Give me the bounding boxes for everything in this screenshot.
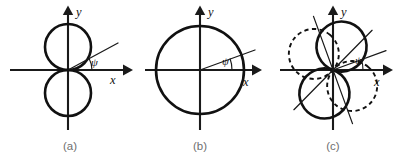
panel-a-x-axis-label: x (109, 73, 116, 87)
panel-c-x-axis-label: x (373, 75, 380, 89)
panel-b-angle-arc (230, 59, 232, 71)
panel-b-y-axis-label: y (206, 5, 214, 19)
panel-c: ψ y x (c) (279, 5, 393, 152)
panel-b-x-axis-arrow-icon (252, 65, 262, 76)
panel-b: ψ y x (b) (145, 5, 262, 152)
panel-c-angle-label: ψ (355, 54, 362, 66)
panel-c-x-axis-arrow-icon (383, 65, 393, 76)
panel-c-y-axis-label: y (339, 5, 347, 19)
panel-b-x-axis-label: x (242, 75, 249, 89)
panel-c-y-axis-arrow-icon (328, 6, 338, 16)
panel-b-caption: (b) (193, 140, 207, 152)
panel-b-y-axis-arrow-icon (195, 6, 205, 16)
figure-container: ψ y x (a) ψ y x (b) (0, 0, 401, 159)
panel-a-y-axis-arrow-icon (63, 6, 73, 16)
panel-c-dashed-circle-upper (279, 19, 349, 89)
panel-a-x-axis-arrow-icon (123, 65, 133, 76)
panel-a-y-axis-label: y (74, 5, 82, 19)
figure-svg: ψ y x (a) ψ y x (b) (0, 0, 401, 159)
panel-a-angle-label: ψ (91, 56, 98, 68)
panel-a-caption: (a) (63, 140, 77, 152)
panel-c-caption: (c) (326, 140, 340, 152)
panel-a: ψ y x (a) (10, 5, 133, 152)
panel-b-angle-label: ψ (222, 55, 229, 67)
